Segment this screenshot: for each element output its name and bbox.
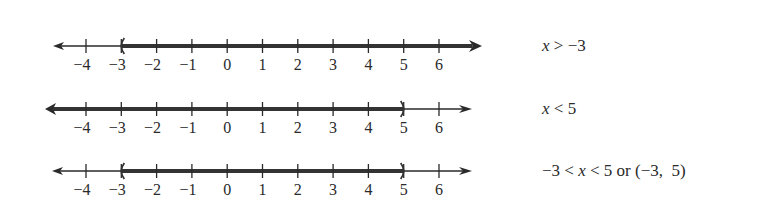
- number-line-1: −4−3−2−10123456: [53, 38, 482, 73]
- tick-label: 3: [329, 119, 337, 136]
- tick-label: 0: [223, 181, 231, 198]
- tick-label: −1: [179, 119, 196, 136]
- tick-label: 0: [223, 56, 231, 73]
- tick-label: 2: [294, 119, 302, 136]
- tick-label: 3: [329, 181, 337, 198]
- tick-label: −4: [73, 181, 90, 198]
- expression-text: < 5 or (−3, 5): [586, 161, 686, 180]
- tick-label: −3: [109, 119, 126, 136]
- tick-label: −3: [109, 181, 126, 198]
- tick-label: −2: [144, 56, 161, 73]
- tick-label: 4: [364, 119, 372, 136]
- tick-label: 5: [400, 181, 408, 198]
- variable-x: x: [578, 161, 586, 180]
- tick-label: 2: [294, 181, 302, 198]
- tick-label: 4: [364, 56, 372, 73]
- tick-label: −4: [73, 56, 90, 73]
- variable-x: x: [542, 36, 550, 55]
- tick-label: −1: [179, 56, 196, 73]
- tick-label: 3: [329, 56, 337, 73]
- tick-label: 0: [223, 119, 231, 136]
- expression-text: < 5: [550, 99, 577, 118]
- tick-label: 5: [400, 119, 408, 136]
- tick-label: 1: [259, 181, 267, 198]
- tick-label: −2: [144, 119, 161, 136]
- tick-label: 6: [435, 119, 443, 136]
- number-line-3: −4−3−2−10123456: [52, 163, 472, 198]
- tick-label: −2: [144, 181, 161, 198]
- tick-label: 6: [435, 181, 443, 198]
- tick-label: 4: [364, 181, 372, 198]
- inequality-expression-1: x > −3: [542, 37, 586, 54]
- number-line-2: −4−3−2−10123456: [45, 101, 472, 136]
- number-line-diagram: −4−3−2−10123456−4−3−2−10123456−4−3−2−101…: [0, 0, 773, 216]
- tick-label: 6: [435, 56, 443, 73]
- inequality-expression-2: x < 5: [542, 100, 576, 117]
- tick-label: −3: [109, 56, 126, 73]
- tick-label: −1: [179, 181, 196, 198]
- tick-label: 1: [259, 56, 267, 73]
- variable-x: x: [542, 99, 550, 118]
- tick-label: 2: [294, 56, 302, 73]
- tick-label: 1: [259, 119, 267, 136]
- tick-label: −4: [73, 119, 90, 136]
- expression-text: −3 <: [542, 161, 578, 180]
- inequality-expression-3: −3 < x < 5 or (−3, 5): [542, 162, 686, 179]
- tick-label: 5: [400, 56, 408, 73]
- expression-text: > −3: [550, 36, 586, 55]
